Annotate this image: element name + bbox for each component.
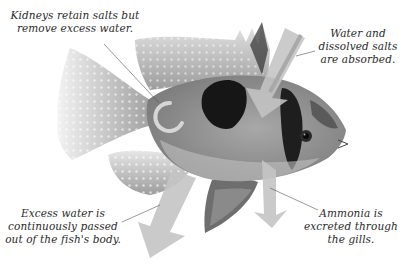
kidneys-label-line-2: remove excess water. <box>6 22 144 35</box>
excess-water-label: Excess water is continuously passed out … <box>4 207 122 246</box>
water-in-leader-line <box>296 51 315 56</box>
ammonia-line-3: the gills. <box>300 233 402 246</box>
kidneys-label: Kidneys retain salts but remove excess w… <box>6 9 144 35</box>
excess-water-line-1: Excess water is <box>4 207 122 220</box>
tail-fin <box>58 48 152 160</box>
water-absorbed-line-3: are absorbed. <box>318 53 398 66</box>
ammonia-line-2: excreted through <box>300 220 402 233</box>
excess-water-line-3: out of the fish's body. <box>4 233 122 246</box>
kidneys-label-line-1: Kidneys retain salts but <box>6 9 144 22</box>
pelvic-fin <box>204 178 258 233</box>
water-absorbed-line-2: dissolved salts <box>318 40 398 53</box>
ammonia-label: Ammonia is excreted through the gills. <box>300 207 402 246</box>
ammonia-line-1: Ammonia is <box>300 207 402 220</box>
excess-water-line-2: continuously passed <box>4 220 122 233</box>
water-absorbed-line-1: Water and <box>318 27 398 40</box>
water-absorbed-label: Water and dissolved salts are absorbed. <box>318 27 398 66</box>
